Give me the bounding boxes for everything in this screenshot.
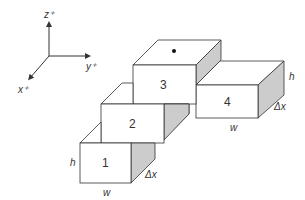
x-axis xyxy=(30,56,49,78)
block-4-depth-label: Δx xyxy=(273,101,287,112)
block-4-width-label: w xyxy=(230,122,238,133)
block-1-depth-label: Δx xyxy=(144,169,158,180)
block-2-side xyxy=(164,104,189,140)
block-3-marker-dot xyxy=(172,49,176,53)
block-4-label: 4 xyxy=(224,95,231,109)
block-1-height-label: h xyxy=(70,157,76,168)
diagram-canvas: z⁺ y⁺ x⁺ 4 3 2 1 h w Δx h w Δx xyxy=(0,0,305,200)
block-2-top xyxy=(101,83,133,104)
coordinate-axes: z⁺ y⁺ x⁺ xyxy=(17,9,97,95)
block-3-label: 3 xyxy=(160,78,167,92)
block-2-label: 2 xyxy=(129,117,136,131)
x-axis-label: x⁺ xyxy=(17,84,29,95)
y-axis-label: y⁺ xyxy=(85,61,97,72)
z-axis-label: z⁺ xyxy=(43,9,55,20)
block-1-label: 1 xyxy=(102,156,109,170)
block-1-top xyxy=(80,122,101,143)
block-1-width-label: w xyxy=(103,187,111,198)
block-4-height-label: h xyxy=(289,71,295,82)
